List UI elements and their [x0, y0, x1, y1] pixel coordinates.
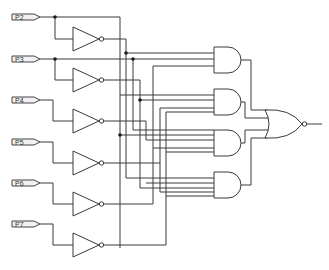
and-gate-3	[214, 130, 241, 156]
input-label-p5: P5	[15, 139, 24, 146]
input-label-p6: P6	[15, 180, 24, 187]
and-gate-1	[214, 47, 241, 73]
input-label-p2: P2	[15, 14, 24, 21]
input-pin-p5: P5	[12, 139, 40, 146]
input-pin-p6: P6	[12, 180, 40, 187]
input-pin-p4: P4	[12, 97, 40, 104]
junction-dots	[53, 15, 142, 137]
input-label-p3: P3	[15, 56, 24, 63]
input-pin-p2: P2	[12, 14, 40, 21]
inverter-6	[73, 233, 104, 257]
and-gate-4	[214, 172, 241, 198]
and-gate-2	[214, 89, 241, 115]
inverter-1	[73, 27, 104, 51]
inverter-4	[73, 151, 104, 175]
inverter-5	[73, 192, 104, 216]
nor-gate	[265, 110, 307, 138]
input-pin-p7: P7	[12, 221, 40, 228]
input-label-p4: P4	[15, 97, 24, 104]
logic-circuit-diagram: P2 P3 P4 P5 P6 P7	[0, 0, 329, 270]
inverter-3	[73, 109, 104, 133]
input-label-p7: P7	[15, 221, 24, 228]
input-pin-p3: P3	[12, 56, 40, 63]
inverter-2	[73, 68, 104, 92]
and-output-wires	[241, 60, 270, 185]
